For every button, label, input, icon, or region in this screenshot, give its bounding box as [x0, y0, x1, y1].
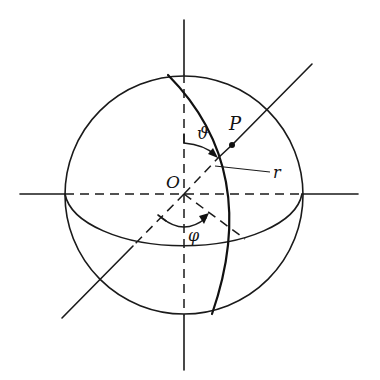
- phi-label: φ: [188, 226, 200, 245]
- diagonal-axis-lower: [62, 246, 133, 318]
- radius-label: r: [273, 163, 282, 182]
- diagonal-axis-inner-upper: [184, 158, 218, 194]
- point-label: P: [228, 113, 242, 134]
- diagonal-axis-inner-lower: [133, 194, 184, 246]
- diagonal-axis-upper: [232, 64, 312, 145]
- spherical-coordinates-diagram: O P r ϑ φ: [0, 0, 380, 380]
- theta-label: ϑ: [197, 124, 208, 143]
- origin-label: O: [166, 172, 180, 192]
- point-p-dot: [229, 142, 235, 148]
